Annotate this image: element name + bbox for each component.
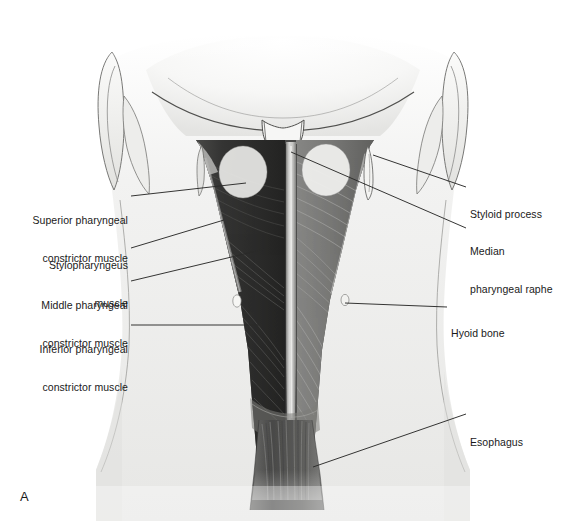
hyoid-horn-right [341,294,349,305]
label-hyoid-bone: Hyoid bone [451,302,546,365]
label-esophagus: Esophagus [470,411,565,474]
label-line: Stylopharyngeus [18,259,128,272]
label-line: Median [470,245,565,258]
label-line: Styloid process [470,208,565,221]
figure-root: Superior pharyngeal constrictor muscle S… [0,0,565,521]
label-line: constrictor muscle [18,381,128,394]
label-line: Inferior pharyngeal [18,343,128,356]
label-line: Middle pharyngeal [18,299,128,312]
median-raphe-band [285,142,297,420]
label-line: pharyngeal raphe [470,283,565,296]
label-line: Esophagus [470,436,565,449]
label-line: Hyoid bone [451,327,546,340]
hyoid-horn-left [233,295,241,307]
label-inferior-pharyngeal-constrictor-muscle: Inferior pharyngeal constrictor muscle [18,318,128,418]
label-line: Superior pharyngeal [18,214,128,227]
panel-letter: A [20,489,29,504]
